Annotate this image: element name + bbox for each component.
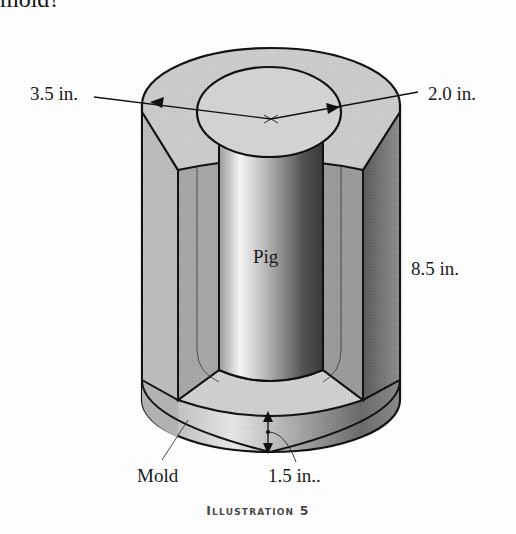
- pig-label: Pig: [253, 246, 278, 268]
- pig-cylinder: [197, 67, 341, 381]
- outer-diameter-label: 3.5 in.: [30, 83, 78, 105]
- inner-diameter-label: 2.0 in.: [428, 83, 476, 105]
- mold-label: Mold: [137, 465, 178, 487]
- bottom-thickness-label: 1.5 in..: [268, 465, 321, 487]
- height-label: 8.5 in.: [411, 258, 459, 280]
- figure-caption: Illustration 5: [0, 503, 516, 518]
